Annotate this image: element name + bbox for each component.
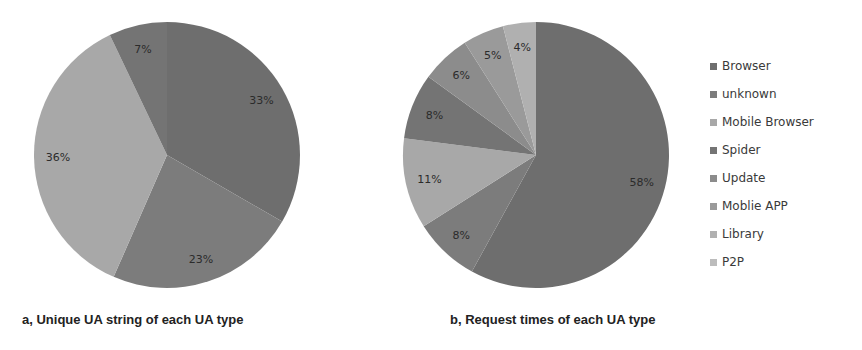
legend-item-update: Update bbox=[710, 164, 814, 192]
legend-item-browser: Browser bbox=[710, 52, 814, 80]
legend-swatch-icon bbox=[710, 259, 717, 266]
legend-item-spider: Spider bbox=[710, 136, 814, 164]
legend-swatch-icon bbox=[710, 175, 717, 182]
legend-swatch-icon bbox=[710, 119, 717, 126]
slice-label: 33% bbox=[249, 94, 273, 107]
legend-label: Browser bbox=[722, 59, 771, 73]
slice-label: 8% bbox=[453, 229, 470, 242]
legend-label: Moblie APP bbox=[722, 199, 788, 213]
slice-label: 4% bbox=[514, 41, 531, 54]
legend-swatch-icon bbox=[710, 63, 717, 70]
legend-swatch-icon bbox=[710, 231, 717, 238]
legend: BrowserunknownMobile BrowserSpiderUpdate… bbox=[710, 52, 814, 276]
slice-label: 8% bbox=[426, 109, 443, 122]
slice-label: 5% bbox=[484, 49, 501, 62]
slice-label: 11% bbox=[417, 173, 441, 186]
legend-item-unknown: unknown bbox=[710, 80, 814, 108]
caption-b: b, Request times of each UA type bbox=[450, 312, 655, 327]
slice-label: 7% bbox=[134, 43, 151, 56]
slice-label: 6% bbox=[453, 69, 470, 82]
legend-label: P2P bbox=[722, 255, 744, 269]
legend-item-moblie-app: Moblie APP bbox=[710, 192, 814, 220]
caption-a: a, Unique UA string of each UA type bbox=[22, 312, 244, 327]
legend-label: Library bbox=[722, 227, 764, 241]
legend-label: Mobile Browser bbox=[722, 115, 814, 129]
slice-label: 58% bbox=[629, 176, 653, 189]
legend-item-p2p: P2P bbox=[710, 248, 814, 276]
pie-chart-b: 58%8%11%8%6%5%4% bbox=[366, 0, 706, 300]
legend-swatch-icon bbox=[710, 91, 717, 98]
pie-chart-a: 33%23%36%7% bbox=[0, 0, 340, 300]
legend-swatch-icon bbox=[710, 147, 717, 154]
slice-label: 36% bbox=[46, 151, 70, 164]
legend-item-mobile-browser: Mobile Browser bbox=[710, 108, 814, 136]
legend-label: Update bbox=[722, 171, 765, 185]
legend-label: unknown bbox=[722, 87, 777, 101]
legend-item-library: Library bbox=[710, 220, 814, 248]
legend-swatch-icon bbox=[710, 203, 717, 210]
slice-label: 23% bbox=[189, 253, 213, 266]
legend-label: Spider bbox=[722, 143, 761, 157]
